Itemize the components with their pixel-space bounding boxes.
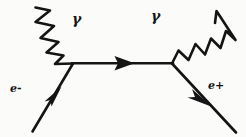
electron-arrowhead: [45, 87, 62, 107]
photon-outgoing-label: γ: [151, 9, 160, 23]
propagator-line: [72, 56, 173, 70]
feynman-diagram-graphic: [0, 0, 246, 137]
photon-incoming-line: [36, 8, 74, 65]
photon-outgoing-line: [172, 11, 236, 64]
electron-label: e-: [10, 83, 22, 94]
positron-label: e+: [208, 80, 224, 91]
feynman-diagram-canvas: e- e+ γ γ: [0, 0, 246, 137]
electron-line: [33, 64, 74, 132]
positron-line: [172, 64, 236, 133]
photon-incoming-label: γ: [72, 12, 81, 26]
